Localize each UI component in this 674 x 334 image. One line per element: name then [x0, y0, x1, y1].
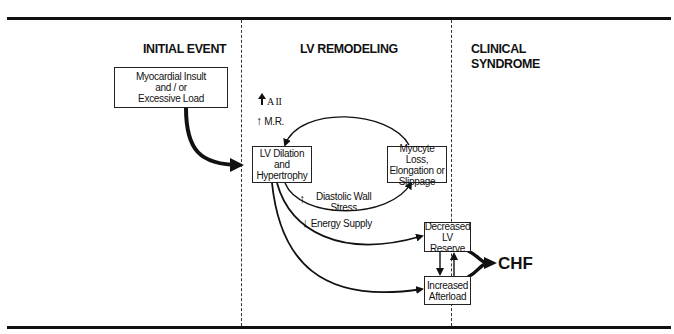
dilation-line1: LV Dilation	[256, 148, 307, 159]
myocyte-line3: Slippage	[388, 176, 446, 187]
insult-line2: and / or	[136, 82, 206, 93]
label-diastolic-wall-stress: ↑ Diastolic Wall Stress	[316, 191, 371, 213]
node-lv-dilation: LV Dilation and Hypertrophy	[252, 146, 312, 183]
wall-stress-line2: Stress	[316, 202, 371, 213]
dilation-line2: and	[256, 159, 307, 170]
reserve-line2: LV Reserve	[425, 232, 471, 254]
afterload-line1: Increased	[427, 280, 468, 291]
label-mr: ↑ M.R.	[256, 116, 284, 127]
down-arrow-energy-icon: ↓	[302, 215, 308, 230]
node-chf: CHF	[498, 254, 533, 274]
wall-stress-line1: Diastolic Wall	[316, 191, 371, 202]
connector-arrows	[0, 0, 674, 334]
node-decreased-lv-reserve: Decreased LV Reserve	[424, 222, 471, 252]
label-a2: A II	[267, 96, 282, 107]
dilation-line3: Hypertrophy	[256, 170, 307, 181]
up-arrow-wall-stress-icon: ↑	[299, 193, 305, 204]
up-arrow-mr-icon: ↑	[256, 114, 262, 128]
node-myocardial-insult: Myocardial Insult and / or Excessive Loa…	[114, 67, 228, 108]
reserve-line1: Decreased	[425, 221, 471, 232]
insult-line1: Myocardial Insult	[136, 71, 206, 82]
label-energy-supply: ↓ Energy Supply	[302, 217, 372, 229]
node-myocyte-loss: Myocyte Loss, Elongation or Slippage	[387, 146, 447, 183]
insult-line3: Excessive Load	[136, 93, 206, 104]
afterload-line2: Afterload	[427, 291, 468, 302]
energy-text: Energy Supply	[311, 218, 372, 229]
mr-text: M.R.	[264, 116, 284, 127]
myocyte-line1: Myocyte Loss,	[388, 143, 446, 165]
node-increased-afterload: Increased Afterload	[424, 276, 471, 305]
up-arrow-a2-icon	[258, 93, 266, 105]
myocyte-line2: Elongation or	[388, 165, 446, 176]
